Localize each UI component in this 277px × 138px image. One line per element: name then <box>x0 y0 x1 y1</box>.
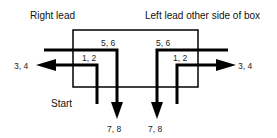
left-side-exit-label: 3, 4 <box>14 61 28 71</box>
start-label: Start <box>51 98 72 109</box>
left-outer-wire <box>44 50 117 104</box>
left-bottom-exit-label: 7, 8 <box>107 124 121 134</box>
left-inner-wire-label: 1, 2 <box>82 53 96 63</box>
right-lead-title: Right lead <box>30 10 75 21</box>
left-side-arrow-icon <box>36 59 56 71</box>
right-outer-wire-label: 5, 6 <box>156 38 170 48</box>
right-bottom-exit-label: 7, 8 <box>148 124 162 134</box>
left-outer-wire-label: 5, 6 <box>101 38 115 48</box>
right-inner-wire <box>177 65 222 104</box>
right-side-exit-label: 3, 4 <box>238 61 252 71</box>
left-lead-title: Left lead other side of box <box>145 10 260 21</box>
right-side-arrow-icon <box>216 59 236 71</box>
left-bottom-arrow-icon <box>111 102 123 119</box>
right-outer-wire <box>157 50 228 104</box>
wiring-diagram: Right lead Left lead other side of box 5… <box>0 0 277 138</box>
right-inner-wire-label: 1, 2 <box>173 53 187 63</box>
right-bottom-arrow-icon <box>151 102 163 119</box>
